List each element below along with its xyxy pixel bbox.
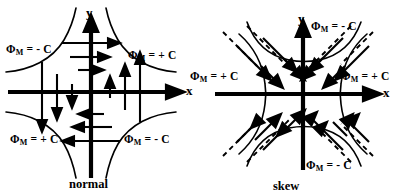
label-normal-upper-right: ΦM = + C [128, 50, 177, 63]
phi-equation: = - C [144, 133, 169, 145]
x-axis-arrowhead [364, 88, 379, 100]
phi-equation: = - C [326, 159, 351, 171]
phi-equation: = + C [210, 70, 238, 82]
field-arrow-h2 [98, 52, 110, 62]
phi-symbol: Φ [311, 20, 321, 32]
x-axis-label: x [383, 86, 390, 99]
phi-symbol: Φ [124, 133, 134, 145]
phi-subscript: M [321, 25, 329, 34]
field-arrow-v2 [52, 108, 62, 120]
skew-diagram-svg [201, 0, 402, 196]
field-arrow-v6 [105, 76, 115, 88]
y-axis-label: y [86, 6, 93, 19]
label-skew-top: ΦM = - C [311, 21, 357, 34]
phi-subscript: M [134, 138, 142, 147]
skew-arrowhead-lr-2 [314, 122, 328, 136]
skew-arrowhead-ll-2 [277, 123, 291, 137]
label-skew-bottom: ΦM = - C [306, 160, 352, 173]
field-arrow-v1 [37, 120, 47, 132]
phi-symbol: Φ [10, 133, 20, 145]
phi-equation: = + C [361, 70, 389, 82]
phi-subscript: M [316, 164, 324, 173]
phi-subscript: M [351, 75, 359, 84]
field-arrow-h5 [72, 122, 84, 132]
field-arrow-h6 [78, 109, 90, 119]
phi-subscript: M [20, 138, 28, 147]
phi-symbol: Φ [6, 43, 16, 55]
phi-equation: = - C [331, 20, 356, 32]
x-axis-label: x [186, 84, 193, 97]
skew-arrowhead-lr-4 [304, 112, 318, 126]
caption-skew: skew [273, 180, 299, 193]
field-arrow-h3 [92, 65, 104, 75]
field-arrow-v5 [120, 64, 130, 76]
phi-subscript: M [16, 48, 24, 57]
panel-normal: y x ΦM = - C ΦM = + C ΦM = + C ΦM = - C … [0, 0, 201, 196]
phi-equation: = + C [30, 133, 58, 145]
phi-equation: = + C [148, 49, 176, 61]
phi-equation: = - C [26, 43, 51, 55]
y-axis-label: y [298, 12, 305, 25]
label-normal-upper-left: ΦM = - C [6, 44, 52, 57]
quadrupole-field-figure: y x ΦM = - C ΦM = + C ΦM = + C ΦM = - C … [0, 0, 402, 196]
caption-normal: normal [69, 178, 108, 191]
label-skew-right: ΦM = + C [341, 71, 390, 84]
panel-skew: y x ΦM = - C ΦM = + C ΦM = + C ΦM = - C … [201, 0, 402, 196]
phi-subscript: M [200, 75, 208, 84]
phi-symbol: Φ [341, 70, 351, 82]
label-normal-lower-right: ΦM = - C [124, 134, 170, 147]
label-skew-left: ΦM = + C [190, 71, 239, 84]
field-arrow-v3 [67, 96, 77, 108]
phi-symbol: Φ [306, 159, 316, 171]
phi-symbol: Φ [190, 70, 200, 82]
phi-subscript: M [138, 54, 146, 63]
phi-symbol: Φ [128, 49, 138, 61]
skew-arrow-ul-1 [237, 46, 263, 72]
normal-diagram-svg [0, 0, 201, 196]
x-axis-arrowhead [167, 86, 182, 98]
label-normal-lower-left: ΦM = + C [10, 134, 59, 147]
